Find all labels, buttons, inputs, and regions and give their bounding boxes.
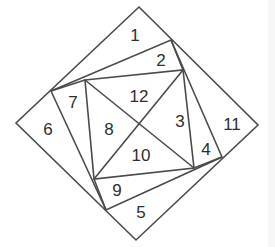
diagram-labels: 121276831110495 [43,26,241,222]
square-dissection-diagram: 121276831110495 [0,0,275,247]
region-label-2: 2 [156,51,165,70]
region-label-8: 8 [104,120,113,139]
region-label-11: 11 [223,115,241,134]
region-label-12: 12 [130,87,149,106]
region-label-3: 3 [175,112,184,131]
region-label-9: 9 [112,181,121,200]
region-label-4: 4 [201,140,210,159]
region-label-7: 7 [68,93,77,112]
region-label-10: 10 [132,146,151,165]
region-label-6: 6 [43,120,52,139]
region-label-1: 1 [130,26,139,45]
region-label-5: 5 [136,203,145,222]
